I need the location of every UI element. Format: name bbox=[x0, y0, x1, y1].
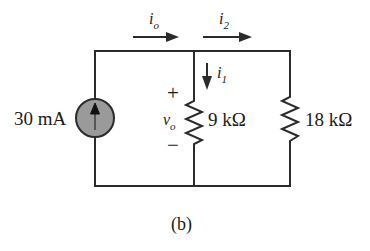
current-source-30ma bbox=[76, 99, 114, 137]
circuit-diagram: 30 mA io i2 i1 9 kΩ + vo − 18 kΩ (b) bbox=[0, 0, 370, 251]
polarity-minus: − bbox=[167, 133, 179, 157]
source-label: 30 mA bbox=[14, 108, 67, 129]
i1-subscript: 1 bbox=[221, 73, 227, 85]
figure-caption: (b) bbox=[171, 214, 192, 235]
resistor-9k-label: 9 kΩ bbox=[208, 109, 246, 130]
i2-subscript: 2 bbox=[223, 19, 229, 31]
polarity-plus: + bbox=[167, 81, 179, 105]
vo-subscript: o bbox=[170, 120, 176, 132]
io-subscript: o bbox=[153, 19, 159, 31]
resistor-18k-label: 18 kΩ bbox=[305, 109, 352, 130]
